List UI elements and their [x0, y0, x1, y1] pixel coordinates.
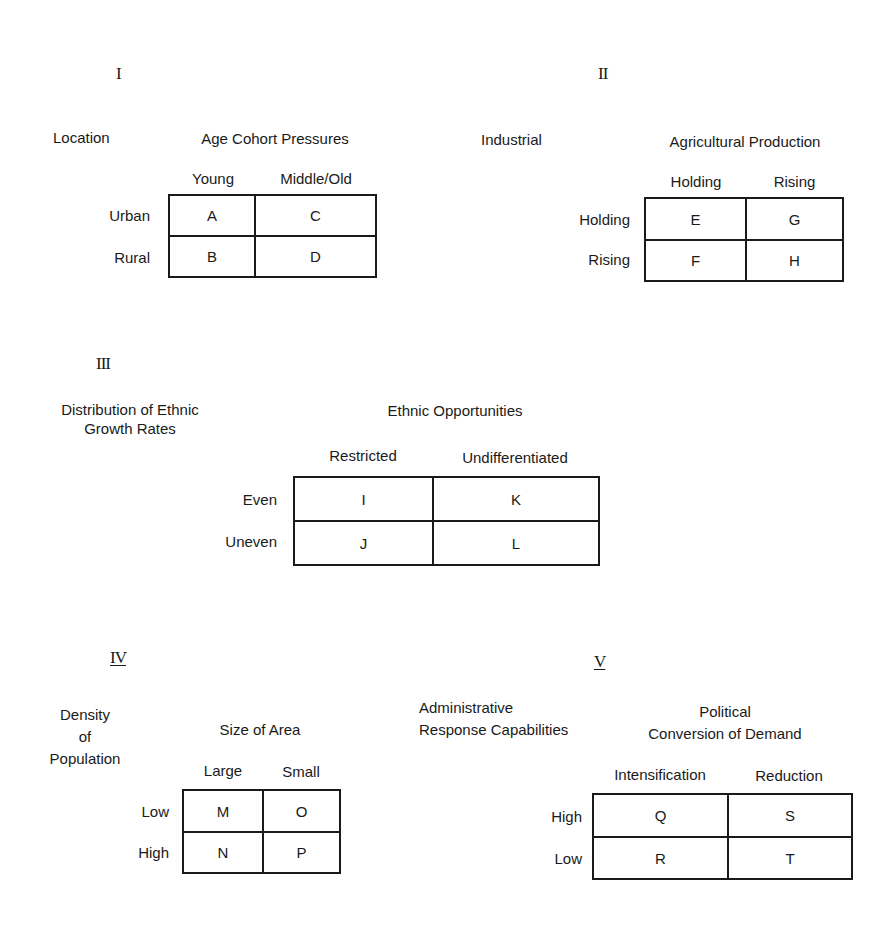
cell: F	[646, 241, 747, 280]
table-numeral: II	[598, 64, 607, 84]
cell: G	[747, 199, 842, 241]
cell: M	[184, 791, 264, 833]
row-header: High	[100, 843, 169, 862]
row-variable-label: Industrial	[481, 130, 542, 149]
row-header: Holding	[540, 210, 630, 229]
cell: H	[747, 241, 842, 280]
row-header: Rural	[60, 248, 150, 267]
row-variable-label: Distribution of Ethnic Growth Rates	[30, 400, 230, 438]
column-variable-label: Age Cohort Pressures	[180, 129, 370, 148]
row-header: Even	[180, 490, 277, 509]
cell: K	[434, 478, 598, 522]
cell: A	[170, 196, 256, 237]
cell: E	[646, 199, 747, 241]
column-variable-line: Political	[620, 701, 830, 723]
column-variable-line: Conversion of Demand	[620, 723, 830, 745]
cell: O	[264, 791, 339, 833]
crosstab-grid: A C B D	[168, 194, 377, 278]
table-numeral: IV	[110, 648, 126, 668]
column-header: Intensification	[594, 765, 726, 784]
crosstab-grid: M O N P	[182, 789, 341, 874]
column-header: Middle/Old	[256, 169, 376, 188]
row-variable-label: Location	[53, 128, 110, 147]
row-variable-line: Density	[30, 704, 140, 726]
cell: D	[256, 237, 375, 276]
cell: B	[170, 237, 256, 276]
crosstab-grid: Q S R T	[592, 793, 853, 880]
table-numeral: I	[116, 64, 121, 84]
row-header: High	[500, 807, 582, 826]
column-header: Reduction	[726, 766, 852, 785]
row-header: Low	[500, 849, 582, 868]
row-variable-line: Response Capabilities	[419, 719, 568, 741]
column-variable-label: Ethnic Opportunities	[340, 401, 570, 420]
cell: P	[264, 833, 339, 872]
crosstab-grid: I K J L	[293, 476, 600, 566]
column-header: Young	[171, 169, 255, 188]
column-variable-label: Agricultural Production	[640, 132, 850, 151]
cell: J	[295, 522, 434, 564]
cell: T	[729, 838, 851, 878]
column-header: Large	[184, 761, 262, 780]
column-header: Restricted	[296, 446, 430, 465]
cell: I	[295, 478, 434, 522]
row-variable-label: Administrative Response Capabilities	[419, 697, 568, 741]
crosstab-grid: E G F H	[644, 197, 844, 282]
table-numeral: V	[594, 652, 605, 672]
cell: R	[594, 838, 729, 878]
column-header: Small	[262, 762, 340, 781]
row-header: Uneven	[180, 532, 277, 551]
cell: L	[434, 522, 598, 564]
row-variable-line: Distribution of Ethnic	[30, 400, 230, 419]
row-variable-label: Density of Population	[30, 704, 140, 770]
row-header: Low	[100, 802, 169, 821]
column-header: Undifferentiated	[432, 448, 598, 467]
column-header: Holding	[646, 172, 746, 191]
table-numeral: III	[96, 354, 110, 374]
column-header: Rising	[746, 172, 843, 191]
cell: Q	[594, 795, 729, 838]
row-header: Urban	[60, 206, 150, 225]
row-variable-line: Population	[30, 748, 140, 770]
cell: C	[256, 196, 375, 237]
row-variable-line: of	[30, 726, 140, 748]
cell: S	[729, 795, 851, 838]
row-variable-line: Administrative	[419, 697, 568, 719]
column-variable-label: Size of Area	[190, 720, 330, 739]
column-variable-label: Political Conversion of Demand	[620, 701, 830, 745]
cell: N	[184, 833, 264, 872]
row-variable-line: Growth Rates	[30, 419, 230, 438]
row-header: Rising	[540, 250, 630, 269]
